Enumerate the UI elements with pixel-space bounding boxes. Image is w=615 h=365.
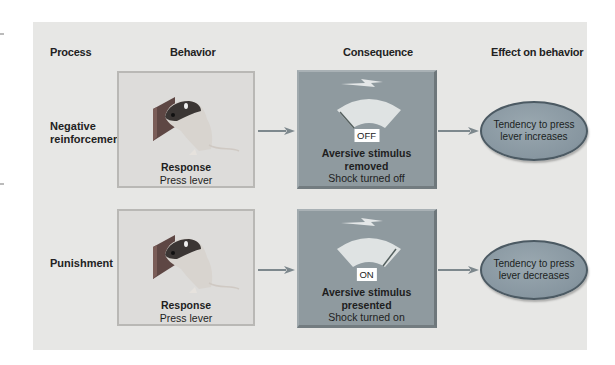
process-label-negative-reinforcement: Negative reinforcement [50,120,123,146]
rat-pressing-lever-icon [135,217,245,295]
process-label-punishment: Punishment [50,257,113,270]
consequence-text: Aversive stimulus removed Shock turned o… [299,147,434,185]
behavior-title: Response [119,161,253,174]
header-effect: Effect on behavior [491,46,583,58]
header-consequence: Consequence [343,46,413,58]
margin-mark [0,33,4,35]
behavior-subtitle: Press lever [119,174,253,187]
consequence-box: ON Aversive stimulus presented Shock tur… [297,209,437,328]
arrow-right-icon [258,126,296,136]
margin-mark [0,183,4,185]
effect-ellipse: Tendency to press lever decreases [480,240,588,300]
consequence-box: OFF Aversive stimulus removed Shock turn… [297,70,437,189]
arrow-right-icon [438,265,480,275]
behavior-subtitle: Press lever [119,312,253,325]
behavior-title: Response [119,299,253,312]
header-process: Process [50,46,91,58]
behavior-text: Response Press lever [119,161,253,186]
arrow-right-icon [438,126,480,136]
arrow-right-icon [258,265,296,275]
switch-state-label: OFF [354,129,379,142]
switch-state-label: ON [356,268,376,281]
consequence-text: Aversive stimulus presented Shock turned… [299,286,434,324]
behavior-box: Response Press lever [117,71,255,188]
rat-pressing-lever-icon [135,79,245,157]
behavior-box: Response Press lever [117,209,255,326]
effect-ellipse: Tendency to press lever increases [480,101,588,161]
behavior-text: Response Press lever [119,299,253,324]
header-behavior: Behavior [170,46,215,58]
